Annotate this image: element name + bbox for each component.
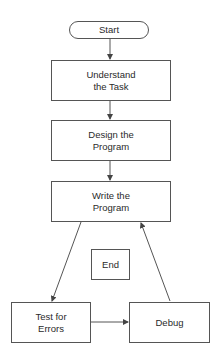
debug-label: Debug xyxy=(156,317,184,329)
understand-task-label: Understand the Task xyxy=(86,69,135,93)
end-node: End xyxy=(91,249,130,280)
start-label: Start xyxy=(99,24,119,36)
design-program-node: Design the Program xyxy=(51,120,171,161)
write-program-label: Write the Program xyxy=(92,190,130,214)
edge-write-test xyxy=(52,222,81,301)
debug-node: Debug xyxy=(129,302,210,343)
design-program-label: Design the Program xyxy=(88,129,133,153)
edge-debug-write xyxy=(141,223,170,301)
test-errors-node: Test for Errors xyxy=(11,302,91,343)
write-program-node: Write the Program xyxy=(51,181,171,222)
test-errors-label: Test for Errors xyxy=(35,311,66,335)
start-node: Start xyxy=(69,21,149,39)
end-label: End xyxy=(102,259,119,271)
understand-task-node: Understand the Task xyxy=(51,60,171,101)
